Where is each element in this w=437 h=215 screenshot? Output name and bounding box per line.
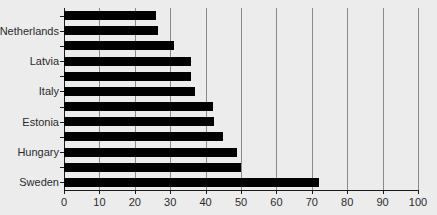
y-tick-label: Italy [39,85,59,97]
x-tick-0 [64,190,65,194]
y-tick-label: Sweden [19,176,59,188]
y-tick-label: Netherlands [0,25,59,37]
gridline-100 [418,8,419,190]
x-tick-60 [276,190,277,194]
bar [64,148,237,157]
x-tick-label-40: 40 [186,196,226,209]
x-tick-80 [347,190,348,194]
x-tick-100 [418,190,419,194]
bar [64,11,156,20]
bar [64,117,214,126]
x-tick-label-0: 0 [44,196,84,209]
x-tick-label-60: 60 [256,196,296,209]
bar [64,41,174,50]
bar [64,87,195,96]
x-tick-50 [241,190,242,194]
bar [64,57,191,66]
x-tick-10 [99,190,100,194]
bar [64,132,223,141]
x-tick-label-50: 50 [221,196,261,209]
x-tick-label-90: 90 [363,196,403,209]
x-tick-label-80: 80 [327,196,367,209]
x-tick-70 [312,190,313,194]
x-tick-label-100: 100 [398,196,437,209]
bar [64,72,191,81]
bar [64,102,213,111]
y-tick-label: Latvia [30,55,59,67]
x-tick-20 [135,190,136,194]
bar [64,163,241,172]
x-tick-30 [170,190,171,194]
y-tick-label: Hungary [17,146,59,158]
plot-area [64,8,418,190]
x-tick-label-20: 20 [115,196,155,209]
bar [64,26,158,35]
y-axis-labels: NetherlandsLatviaItalyEstoniaHungarySwed… [0,0,59,215]
x-tick-label-10: 10 [79,196,119,209]
x-tick-40 [206,190,207,194]
bar-chart: NetherlandsLatviaItalyEstoniaHungarySwed… [0,0,437,215]
x-tick-label-70: 70 [292,196,332,209]
bar [64,178,319,187]
x-tick-label-30: 30 [150,196,190,209]
y-tick-label: Estonia [22,116,59,128]
x-tick-90 [383,190,384,194]
